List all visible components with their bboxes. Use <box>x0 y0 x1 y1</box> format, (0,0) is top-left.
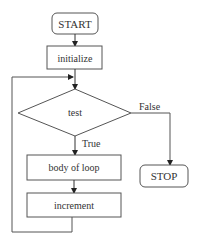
stop-node: STOP <box>140 165 188 187</box>
body-label: body of loop <box>48 162 99 173</box>
start-node: START <box>52 13 98 34</box>
start-label: START <box>58 18 92 30</box>
body-of-loop-node: body of loop <box>27 155 121 180</box>
increment-label: increment <box>54 200 94 211</box>
initialize-label: initialize <box>58 53 94 64</box>
arrow-false-branch <box>131 113 170 165</box>
test-label: test <box>68 107 82 118</box>
false-label: False <box>139 101 161 112</box>
flowchart-canvas: START initialize test False STOP True bo… <box>0 0 198 246</box>
stop-label: STOP <box>151 170 178 182</box>
true-label: True <box>82 138 101 149</box>
test-decision-node: test <box>18 89 131 136</box>
increment-node: increment <box>27 193 121 217</box>
initialize-node: initialize <box>47 46 102 69</box>
